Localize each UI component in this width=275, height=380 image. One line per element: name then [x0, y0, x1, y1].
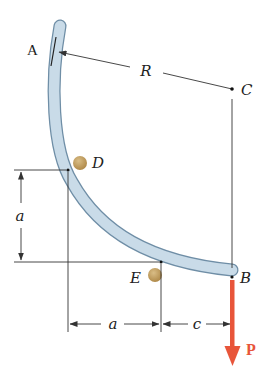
dim-label-c: c: [193, 315, 202, 333]
pin-e: [148, 268, 162, 282]
label-e: E: [129, 269, 141, 287]
radius-line-right: [163, 73, 232, 89]
radius-label: R: [139, 62, 151, 80]
curved-bar-diagram: R C A D E B a a c P: [0, 0, 275, 380]
center-point-c: [230, 87, 234, 91]
load-arrow-p: [225, 280, 241, 366]
pin-d: [73, 156, 87, 170]
radius-arrow-left: [59, 52, 130, 67]
label-a: A: [27, 42, 38, 58]
dim-label-vertical-a: a: [16, 207, 25, 225]
label-c: C: [241, 81, 253, 99]
point-d: [66, 168, 69, 171]
point-e: [159, 260, 162, 263]
label-d: D: [91, 154, 104, 172]
dim-label-horizontal-a: a: [109, 315, 118, 333]
load-label-p: P: [246, 341, 256, 358]
label-b: B: [239, 269, 251, 287]
point-b: [230, 275, 233, 278]
